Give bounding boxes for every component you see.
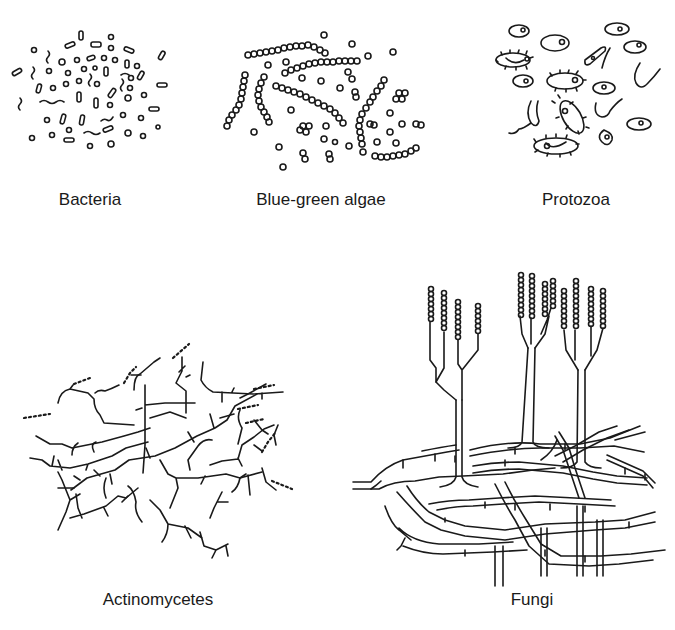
protozoa-illustration-icon (450, 0, 675, 180)
blue-green-algae-panel: Blue-green algae (225, 0, 450, 220)
actinomycetes-illustration-icon (0, 300, 330, 560)
fungi-label: Fungi (511, 590, 554, 610)
bacteria-illustration-icon (0, 0, 225, 180)
blue-green-algae-label: Blue-green algae (256, 190, 385, 210)
protozoa-panel: Protozoa (450, 0, 675, 220)
actinomycetes-panel: Actinomycetes (0, 300, 330, 630)
fungi-illustration-icon (345, 260, 675, 580)
actinomycetes-label: Actinomycetes (103, 590, 214, 610)
bacteria-label: Bacteria (59, 190, 121, 210)
bacteria-panel: Bacteria (0, 0, 225, 220)
protozoa-label: Protozoa (542, 190, 610, 210)
fungi-panel: Fungi (345, 260, 675, 630)
blue-green-algae-illustration-icon (225, 0, 450, 180)
